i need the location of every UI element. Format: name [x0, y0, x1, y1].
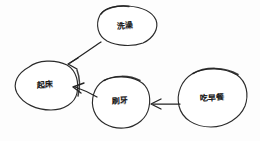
node-shower-label: 洗澡: [116, 21, 133, 31]
diagram-canvas: 洗澡 起床 刷牙 吃早餐: [0, 0, 260, 141]
edge-shower-to-get-up[interactable]: [68, 42, 101, 69]
node-breakfast-label: 吃早餐: [199, 93, 225, 103]
node-brush-teeth-label: 刷牙: [111, 96, 128, 106]
node-get-up-label: 起床: [36, 80, 53, 90]
edge-breakfast-to-brush-teeth[interactable]: [151, 99, 180, 109]
